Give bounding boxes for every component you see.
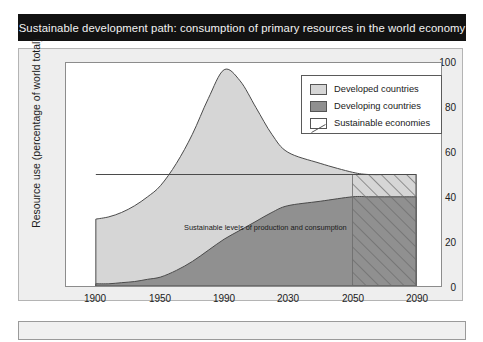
- legend-swatch-developing: [310, 101, 327, 112]
- chart-legend: Developed countries Developing countries…: [301, 75, 442, 134]
- x-tick-label: 2090: [406, 293, 428, 304]
- legend-label-developed: Developed countries: [334, 84, 419, 94]
- legend-label-developing: Developing countries: [334, 101, 421, 111]
- x-tick-label: 2030: [277, 293, 299, 304]
- legend-label-sustainable: Sustainable economies: [334, 118, 430, 128]
- x-tick-label: 1900: [84, 293, 106, 304]
- legend-item-sustainable: Sustainable economies: [310, 115, 441, 131]
- x-tick-label: 2050: [342, 293, 364, 304]
- diagonal-hatch-icon: [311, 124, 326, 133]
- sustainable-level-annotation: Sustainable levels of production and con…: [184, 223, 347, 232]
- figure-root: Sustainable development path: consumptio…: [0, 0, 483, 342]
- legend-item-developing: Developing countries: [310, 98, 441, 114]
- caption-box: [18, 321, 466, 340]
- chart-panel: Resource use (percentage of world total)…: [18, 48, 463, 301]
- legend-swatch-developed: [310, 84, 327, 95]
- page-title: Sustainable development path: consumptio…: [19, 22, 466, 34]
- sustainable-economies-region: [352, 175, 416, 287]
- x-tick-label: 1950: [149, 293, 171, 304]
- y-axis-title: Resource use (percentage of world total): [30, 33, 42, 233]
- legend-swatch-sustainable: [310, 118, 327, 129]
- legend-item-developed: Developed countries: [310, 81, 441, 97]
- chart-title-bar: Sustainable development path: consumptio…: [18, 14, 466, 41]
- x-tick-label: 1990: [213, 293, 235, 304]
